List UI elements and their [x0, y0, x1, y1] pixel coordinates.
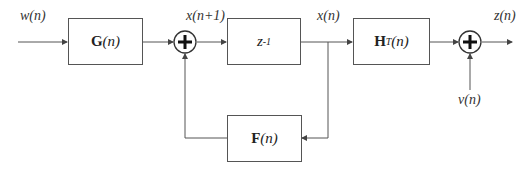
block-f-symbol: F	[251, 130, 260, 147]
label-output: z(n)	[494, 8, 516, 24]
block-f-arg: (n)	[260, 130, 278, 147]
block-g-symbol: G	[91, 33, 103, 50]
block-h: HT(n)	[353, 18, 430, 65]
block-g-arg: (n)	[103, 33, 121, 50]
block-f: F(n)	[227, 115, 302, 162]
label-state: x(n)	[317, 8, 340, 24]
sum-2	[459, 31, 481, 53]
label-noise: v(n)	[458, 92, 481, 108]
block-g: G(n)	[68, 18, 143, 65]
block-delay-exp: -1	[263, 36, 271, 47]
label-state-next: x(n+1)	[186, 8, 225, 24]
label-input: w(n)	[20, 8, 46, 24]
block-delay: z-1	[227, 18, 301, 65]
sum-1	[174, 31, 196, 53]
block-h-symbol: H	[374, 33, 386, 50]
block-h-arg: (n)	[391, 33, 409, 50]
